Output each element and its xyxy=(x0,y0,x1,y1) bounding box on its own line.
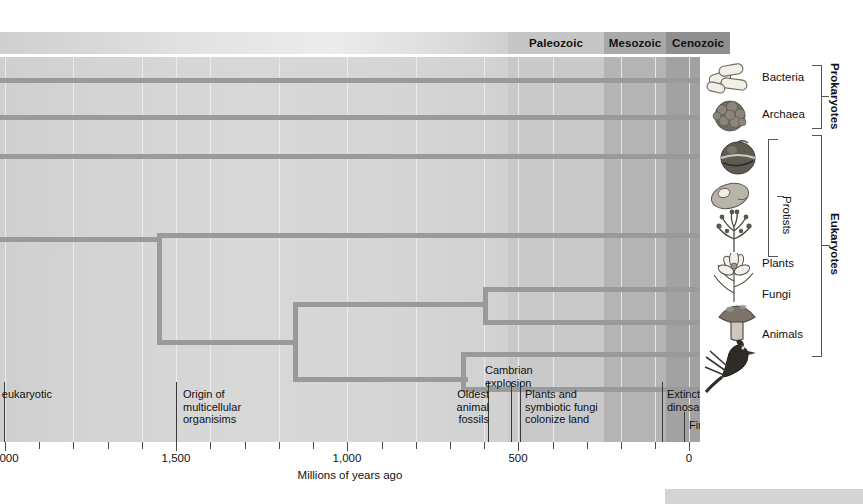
protist-dinoflagellate-illustration xyxy=(714,137,760,179)
bottom-right-strip xyxy=(665,489,863,504)
node-a-connector xyxy=(157,233,162,345)
animals-illustration xyxy=(704,337,758,393)
tick-100 xyxy=(655,442,656,449)
branch-to-node-b xyxy=(157,340,298,345)
tick-400 xyxy=(553,442,554,449)
bracket-protists xyxy=(768,139,778,257)
bracket-prokaryotes-stem xyxy=(821,96,829,97)
marker-line-plants-colonize-land xyxy=(520,382,521,442)
tick-1900 xyxy=(39,442,40,449)
protist-amoeboid-illustration xyxy=(708,179,752,213)
node-b-connector xyxy=(293,302,298,382)
tick-800 xyxy=(416,442,417,449)
tick-0 xyxy=(689,442,690,451)
branch-protist-2 xyxy=(157,233,700,238)
taxon-label-animals: Animals xyxy=(762,328,803,340)
branch-protist-1 xyxy=(0,154,700,159)
tick-label-2000: 000 xyxy=(0,452,19,464)
tick-label-0: 0 xyxy=(686,452,692,464)
branch-bacteria xyxy=(0,78,700,83)
tick-1600 xyxy=(142,442,143,449)
bracket-prokaryotes xyxy=(812,65,822,129)
top-margin xyxy=(0,0,863,30)
era-cenozoic: Cenozoic xyxy=(666,32,730,54)
event-label-oldest-eukaryotic-fossils: dest eukaryotic ssils xyxy=(0,388,88,413)
figure-root: Paleozoic Mesozoic Cenozoic xyxy=(0,0,863,504)
tick-700 xyxy=(450,442,451,449)
tick-500 xyxy=(518,442,519,451)
event-label-plants-colonize-land: Plants and symbiotic fungi colonize land xyxy=(525,388,625,426)
tick-300 xyxy=(587,442,588,449)
tick-1700 xyxy=(108,442,109,449)
tick-label-1500: 1,500 xyxy=(162,452,191,464)
branch-plants xyxy=(483,320,700,325)
bracket-eukaryotes-stem xyxy=(821,245,829,246)
event-label-extinction-dinosaurs: Extinction of dinosaurs xyxy=(667,388,700,413)
archaea-illustration xyxy=(708,97,752,133)
tick-1300 xyxy=(245,442,246,449)
geologic-era-bar: Paleozoic Mesozoic Cenozoic xyxy=(0,32,730,54)
marker-line-first-humans xyxy=(684,412,685,442)
marker-line-extinction-dinosaurs xyxy=(662,382,663,442)
group-label-prokaryotes: Prokaryotes xyxy=(829,63,841,129)
protist-algae-illustration xyxy=(710,209,758,253)
marker-line-cambrian-explosion-start xyxy=(511,382,512,442)
time-axis: 000 1,500 1,000 500 0 Millions of years … xyxy=(0,442,730,504)
taxon-label-archaea: Archaea xyxy=(762,108,805,120)
event-label-first-humans: First humans xyxy=(689,419,700,432)
taxon-label-fungi: Fungi xyxy=(762,288,791,300)
event-label-cambrian-explosion: Cambrian explosion xyxy=(485,364,565,389)
tick-label-500: 500 xyxy=(508,452,527,464)
group-label-protists: Protists xyxy=(781,196,793,234)
plants-illustration xyxy=(708,253,756,303)
tick-1100 xyxy=(313,442,314,449)
tick-600 xyxy=(484,442,485,449)
event-label-oldest-animal-fossils: Oldest animal fossils xyxy=(437,388,489,426)
taxon-legend: Bacteria Archaea Plants Fungi Animals Pr… xyxy=(700,57,863,442)
branch-eukaryote-trunk xyxy=(0,237,162,242)
taxon-label-bacteria: Bacteria xyxy=(762,71,804,83)
tick-1800 xyxy=(73,442,74,449)
tick-1500 xyxy=(176,442,177,451)
tick-1200 xyxy=(279,442,280,449)
bacteria-illustration xyxy=(705,61,753,97)
tick-200 xyxy=(621,442,622,449)
branch-fungi xyxy=(461,352,700,357)
era-mesozoic-label: Mesozoic xyxy=(609,37,662,49)
era-paleozoic: Paleozoic xyxy=(508,32,604,54)
branch-to-node-d xyxy=(293,377,468,382)
tick-1000 xyxy=(347,442,348,451)
marker-line-origin-multicellular xyxy=(176,382,177,442)
timeline-panel: dest eukaryotic ssils Origin of multicel… xyxy=(0,57,700,442)
axis-title: Millions of years ago xyxy=(0,469,700,481)
tick-label-1000: 1,000 xyxy=(333,452,362,464)
bracket-eukaryotes xyxy=(812,135,822,357)
branch-to-node-c xyxy=(293,302,488,307)
taxon-label-plants: Plants xyxy=(762,257,794,269)
era-precambrian xyxy=(0,32,508,54)
tick-1400 xyxy=(210,442,211,449)
event-label-origin-multicellular: Origin of multicellular organisims xyxy=(183,388,293,426)
era-mesozoic: Mesozoic xyxy=(604,32,666,54)
phylogenetic-tree xyxy=(0,57,700,442)
era-paleozoic-label: Paleozoic xyxy=(529,37,583,49)
tick-2000 xyxy=(5,442,6,451)
node-d-connector xyxy=(461,352,466,392)
branch-protist-3 xyxy=(483,287,700,292)
group-label-eukaryotes: Eukaryotes xyxy=(829,213,841,275)
tick-900 xyxy=(382,442,383,449)
era-cenozoic-label: Cenozoic xyxy=(672,37,724,49)
branch-archaea xyxy=(0,115,700,120)
